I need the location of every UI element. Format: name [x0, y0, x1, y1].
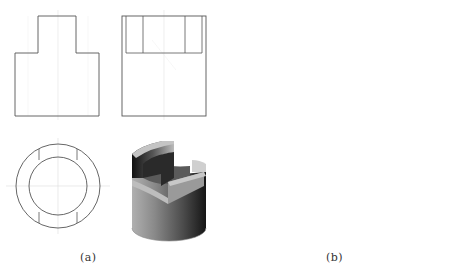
orthographic-drawing-canvas	[0, 0, 461, 268]
panel-a-side-view	[122, 10, 206, 120]
panel-a-isometric-render	[132, 141, 206, 241]
caption-a: (a)	[80, 251, 97, 264]
caption-b: (b)	[326, 251, 343, 264]
panel-a-top-view	[6, 138, 110, 234]
panel-a	[6, 10, 206, 241]
panel-a-front-view	[15, 10, 99, 120]
